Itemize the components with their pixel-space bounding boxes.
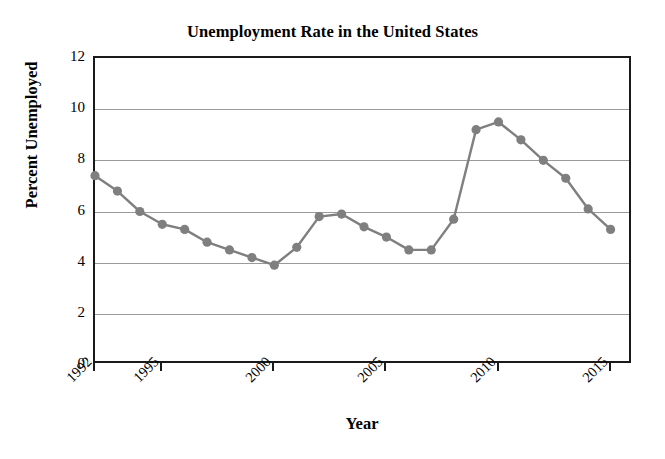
data-point-2006 bbox=[404, 245, 413, 254]
y-tick-label-6: 6 bbox=[51, 203, 85, 218]
data-point-2003 bbox=[337, 209, 346, 218]
data-point-2001 bbox=[292, 243, 301, 252]
data-point-2008 bbox=[449, 215, 458, 224]
y-axis-tick-labels: 024681012 bbox=[45, 56, 85, 363]
plot-inner bbox=[95, 58, 629, 361]
data-point-2007 bbox=[427, 245, 436, 254]
data-point-2012 bbox=[539, 156, 548, 165]
data-point-1999 bbox=[247, 253, 256, 262]
data-point-2004 bbox=[359, 222, 368, 231]
y-tick-label-4: 4 bbox=[51, 254, 85, 269]
data-point-1996 bbox=[180, 225, 189, 234]
data-point-1995 bbox=[158, 220, 167, 229]
x-axis-label: Year bbox=[93, 414, 631, 434]
data-point-2011 bbox=[516, 135, 525, 144]
data-series-unemployment bbox=[95, 58, 633, 365]
series-line bbox=[95, 122, 611, 265]
data-point-1992 bbox=[90, 171, 99, 180]
data-point-2000 bbox=[270, 261, 279, 270]
chart-figure: Unemployment Rate in the United States 0… bbox=[0, 0, 665, 459]
data-point-2002 bbox=[315, 212, 324, 221]
series-markers bbox=[90, 117, 615, 269]
y-tick-label-2: 2 bbox=[51, 305, 85, 320]
data-point-2013 bbox=[561, 174, 570, 183]
y-tick-label-12: 12 bbox=[51, 49, 85, 64]
data-point-1998 bbox=[225, 245, 234, 254]
y-tick-label-8: 8 bbox=[51, 151, 85, 166]
data-point-2009 bbox=[471, 125, 480, 134]
data-point-1997 bbox=[202, 238, 211, 247]
chart-title: Unemployment Rate in the United States bbox=[0, 22, 665, 42]
data-point-1993 bbox=[113, 186, 122, 195]
plot-area bbox=[93, 56, 631, 363]
data-point-2005 bbox=[382, 232, 391, 241]
y-tick-label-10: 10 bbox=[51, 100, 85, 115]
data-point-2010 bbox=[494, 117, 503, 126]
data-point-1994 bbox=[135, 207, 144, 216]
y-axis-label: Percent Unemployed bbox=[22, 45, 42, 225]
data-point-2015 bbox=[606, 225, 615, 234]
data-point-2014 bbox=[584, 204, 593, 213]
